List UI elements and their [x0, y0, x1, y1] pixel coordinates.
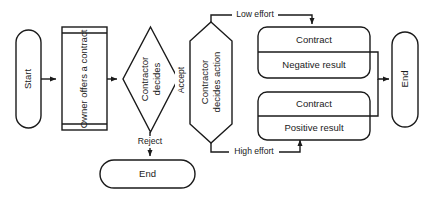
node-contract-positive[interactable]: Contract Positive result: [258, 92, 370, 140]
node-start-label: Start: [22, 69, 33, 89]
node-end-right[interactable]: End: [392, 32, 418, 127]
node-start[interactable]: Start: [16, 30, 41, 128]
node-contractor-decides-label-line2: decides: [151, 62, 162, 95]
node-owner-offers-contract[interactable]: Owner offers a contract: [62, 27, 107, 130]
node-end-right-label: End: [399, 71, 410, 88]
node-contract-negative-result: Negative result: [282, 59, 346, 70]
edge-label-low-effort: Low effort: [232, 9, 278, 21]
node-contract-positive-title: Contract: [296, 98, 332, 109]
edge-label-accept-text: Accept: [176, 66, 186, 93]
connector-positive-to-end: [370, 79, 378, 116]
flowchart-svg: Start Owner offers a contract Contractor…: [0, 0, 431, 197]
node-contractor-decides-action-label-line2: decides action: [211, 52, 222, 113]
flowchart-canvas: Start Owner offers a contract Contractor…: [0, 0, 431, 197]
node-owner-offers-contract-label: Owner offers a contract: [78, 29, 89, 128]
edge-label-reject: Reject: [133, 136, 167, 148]
edge-label-accept: Accept: [175, 62, 187, 98]
node-end-bottom-label: End: [139, 168, 156, 179]
edge-label-high-effort: High effort: [229, 146, 279, 158]
node-contractor-decides-action-label-line1: Contractor: [199, 60, 210, 104]
node-contract-negative[interactable]: Contract Negative result: [258, 27, 370, 78]
node-contractor-decides-action[interactable]: Contractor decides action: [190, 22, 232, 143]
node-contractor-decides-label-line1: Contractor: [139, 57, 150, 101]
edge-label-high-effort-text: High effort: [234, 146, 274, 156]
node-contract-positive-result: Positive result: [284, 122, 343, 133]
edge-label-low-effort-text: Low effort: [236, 9, 274, 19]
node-end-bottom[interactable]: End: [100, 160, 195, 188]
node-contractor-decides[interactable]: Contractor decides: [123, 27, 178, 132]
edge-label-reject-text: Reject: [138, 136, 163, 146]
connector-negative-to-end: [370, 52, 389, 79]
node-contract-negative-title: Contract: [296, 34, 332, 45]
